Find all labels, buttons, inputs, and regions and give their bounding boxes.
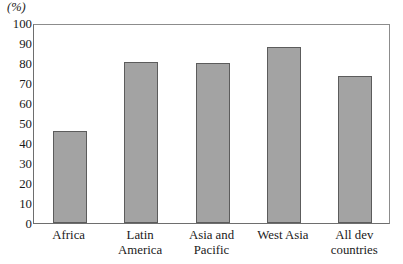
plot-area [33,24,390,224]
y-axis-unit-label: (%) [7,1,26,14]
y-axis-tick-label: 60 [19,96,32,112]
bar [338,76,372,223]
y-axis-tick-label: 10 [19,196,32,212]
x-axis-category-label: Latin America [104,228,175,258]
x-axis-category-label: All dev countries [319,228,390,258]
y-axis-tick-label: 100 [13,16,32,32]
y-axis-tick-label: 80 [19,56,32,72]
x-axis-category-label: Asia and Pacific [176,228,247,258]
bar [53,131,87,223]
x-axis-category-label: Africa [33,228,104,243]
y-axis-tick-label: 50 [19,116,32,132]
bar-chart: (%) 1009080706050403020100 AfricaLatin A… [0,0,403,264]
y-axis-tick-label: 30 [19,156,32,172]
y-axis-tick-label: 70 [19,76,32,92]
y-axis-tick-label: 0 [26,216,32,232]
y-axis-tick-label: 90 [19,36,32,52]
y-axis-tick-label: 40 [19,136,32,152]
bar [124,62,158,223]
bar [196,63,230,223]
y-axis-tick-label: 20 [19,176,32,192]
x-axis-category-label: West Asia [247,228,318,243]
bar [267,47,301,223]
